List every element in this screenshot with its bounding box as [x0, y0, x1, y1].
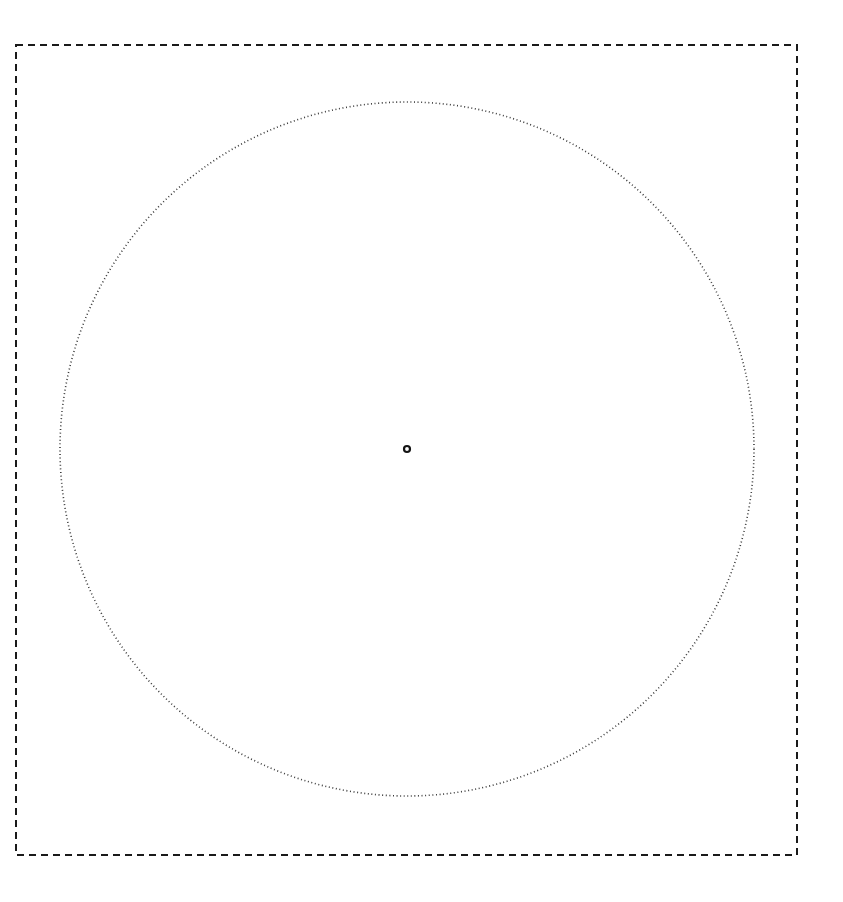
geometry-figure	[0, 0, 843, 902]
figure-canvas	[0, 0, 843, 902]
canvas-background	[0, 0, 843, 902]
